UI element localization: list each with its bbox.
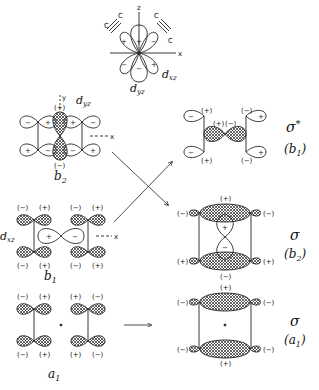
z-axis-label: z <box>137 4 141 12</box>
arrow-b2-to-sigma-b2 <box>112 152 168 205</box>
sign: (+) <box>92 262 104 270</box>
sign: (−) <box>92 293 104 301</box>
sign: + <box>45 119 51 127</box>
sign: (+) <box>70 351 82 359</box>
sign: (−) <box>17 293 29 301</box>
x-axis-label: x <box>110 133 114 141</box>
sign: (+) <box>220 360 232 368</box>
sign: − <box>222 244 228 252</box>
arrow-b1-to-sigma-star <box>114 162 172 222</box>
sigma-b2-irrep: (b2) <box>284 247 306 263</box>
sign: (−) <box>263 210 275 218</box>
mo-diagram: z x C C C C + + − − − + dxz dyz y x (+) … <box>0 0 319 390</box>
sigma-star-orbital <box>184 110 266 157</box>
sign: − <box>25 119 31 127</box>
sign: (−) <box>241 157 253 165</box>
sigma-a1-label: σ <box>290 313 300 329</box>
sigma-a1-irrep: (a1) <box>284 333 306 349</box>
sign: (−) <box>17 262 29 270</box>
sign: (−) <box>241 107 253 115</box>
sign: (−) <box>70 204 82 212</box>
sign: + <box>121 38 127 46</box>
sigma-star-irrep: (b1) <box>284 142 306 158</box>
sign: (+) <box>39 204 51 212</box>
alkyne-right <box>157 19 171 33</box>
a1-orbital <box>17 304 105 347</box>
carbon-label: C <box>104 22 109 30</box>
alkyne-left <box>107 19 121 33</box>
sign: (+) <box>177 258 189 266</box>
sign: − <box>188 113 194 121</box>
sign: (−) <box>17 351 29 359</box>
dyz-label: dyz <box>130 82 145 96</box>
sign: (+) <box>92 204 104 212</box>
dxz-label: dxz <box>0 230 15 244</box>
sign: (+) <box>54 104 66 112</box>
sign: (+) <box>220 284 232 292</box>
x-axis-label: x <box>114 233 118 241</box>
sigma-a1-orbital <box>190 293 261 358</box>
sign: + <box>222 224 228 232</box>
sign: − <box>90 119 96 127</box>
sign: (+) <box>70 293 82 301</box>
dyz-label: dyz <box>76 94 91 108</box>
sign: + <box>258 113 264 121</box>
sign: (−) <box>177 210 189 218</box>
sign: (+) <box>213 120 225 128</box>
sign: (+) <box>201 107 213 115</box>
sign: (+) <box>201 157 213 165</box>
sign: (−) <box>92 351 104 359</box>
dxz-label: dxz <box>162 68 177 82</box>
carbon-label: C <box>118 12 123 20</box>
carbon-label: C <box>168 37 173 45</box>
sign: + <box>70 119 76 127</box>
sign: + <box>258 149 264 157</box>
sign: (−) <box>17 204 29 212</box>
sign: (+) <box>263 258 275 266</box>
y-axis-label: y <box>62 94 66 102</box>
sigma-b2-label: σ <box>290 227 300 243</box>
sign: (−) <box>70 262 82 270</box>
sign: (−) <box>263 299 275 307</box>
sign: (+) <box>220 195 232 203</box>
sign: − <box>70 147 76 155</box>
sign: − <box>45 147 51 155</box>
sign: − <box>72 233 78 241</box>
sign: + <box>136 38 142 46</box>
b1-orbital <box>17 215 112 258</box>
sign: − <box>121 61 127 69</box>
a1-symmetry-label: a1 <box>48 367 60 383</box>
correlation-arrows <box>112 152 172 325</box>
b1-symmetry-label: b1 <box>44 269 57 285</box>
sigma-b2-orbital <box>190 204 261 270</box>
b2-symmetry-label: b2 <box>54 169 67 185</box>
sign: + <box>90 147 96 155</box>
sign: − <box>136 65 142 73</box>
sign: − <box>151 38 157 46</box>
sign: + <box>151 61 157 69</box>
sigma-star-label: σ* <box>286 118 301 135</box>
sign: − <box>188 149 194 157</box>
sign: (−) <box>177 346 189 354</box>
sign: (+) <box>39 351 51 359</box>
sign: + <box>46 233 52 241</box>
x-axis-label: x <box>178 50 182 58</box>
sign: (+) <box>39 293 51 301</box>
carbon-label: C <box>154 12 159 20</box>
sign: (−) <box>177 299 189 307</box>
sign: (−) <box>225 120 237 128</box>
sign: + <box>25 147 31 155</box>
sign: (−) <box>263 346 275 354</box>
sign: (−) <box>220 273 232 281</box>
